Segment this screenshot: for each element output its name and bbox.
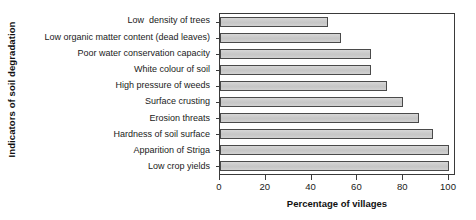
x-axis-tick-label: 20 [260,181,271,192]
bar-row [220,78,454,94]
bar [220,49,371,59]
y-axis-tick-label: White colour of soil [24,62,214,78]
y-axis-tick-mark [216,54,220,55]
bar [220,161,449,171]
y-axis-tick-label: Low crop yields [24,159,214,175]
bars-container [220,14,454,174]
y-axis-tick-label: Surface crusting [24,94,214,110]
bar-row [220,110,454,126]
bar [220,65,371,75]
bar-chart-figure: Indicators of soil degradation Low densi… [0,0,476,220]
x-axis-tick-mark [448,175,449,180]
x-axis-tick-label: 0 [216,181,221,192]
y-axis-tick-mark [216,118,220,119]
bar-row [220,46,454,62]
x-axis-tick-labels: 020406080100 [219,181,455,195]
bar-row [220,142,454,158]
x-axis-tick-mark [311,175,312,180]
y-axis-tick-labels: Low density of treesLow organic matter c… [24,13,214,175]
y-axis-tick-label: Low density of trees [24,13,214,29]
y-axis-title-text: Indicators of soil degradation [6,21,17,157]
y-axis-tick-mark [216,150,220,151]
y-axis-tick-label: Erosion threats [24,110,214,126]
bar [220,113,419,123]
y-axis-tick-label: Low organic matter content (dead leaves) [24,29,214,45]
x-axis-title: Percentage of villages [219,198,455,209]
x-axis-tick-mark [402,175,403,180]
y-axis-tick-label: High pressure of weeds [24,78,214,94]
y-axis-tick-label: Poor water conservation capacity [24,45,214,61]
y-axis-title: Indicators of soil degradation [0,0,22,178]
bar-row [220,62,454,78]
bar [220,17,328,27]
bar-row [220,94,454,110]
bar [220,145,449,155]
bar [220,81,387,91]
x-axis-tick-label: 60 [351,181,362,192]
bar [220,33,341,43]
y-axis-tick-label: Apparition of Striga [24,143,214,159]
y-axis-tick-mark [216,134,220,135]
x-axis-tick-label: 80 [397,181,408,192]
bar-row [220,158,454,174]
y-axis-tick-mark [216,70,220,71]
x-axis-tick-mark [265,175,266,180]
y-axis-tick-label: Hardness of soil surface [24,126,214,142]
y-axis-tick-mark [216,22,220,23]
y-axis-tick-mark [216,86,220,87]
bar-row [220,30,454,46]
bar [220,97,403,107]
x-axis-tick-mark [219,175,220,180]
x-axis-tick-mark [356,175,357,180]
bar [220,129,433,139]
x-axis-tick-label: 100 [440,181,456,192]
bar-row [220,126,454,142]
y-axis-tick-mark [216,38,220,39]
y-axis-tick-mark [216,166,220,167]
plot-area [219,13,455,175]
x-axis-tick-label: 40 [305,181,316,192]
y-axis-tick-mark [216,102,220,103]
bar-row [220,14,454,30]
